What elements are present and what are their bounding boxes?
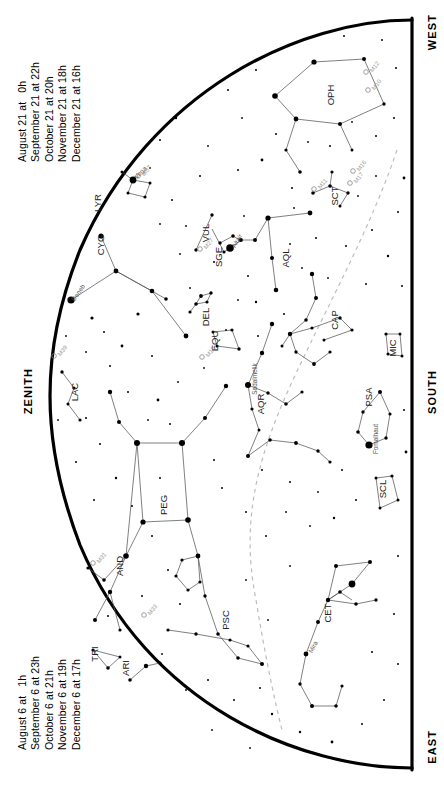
constellation-label-lac: LAC	[69, 383, 80, 402]
dso-m33	[142, 613, 147, 618]
constellation-label-psc: PSC	[220, 610, 231, 630]
constellation-label-mic: MIC	[387, 339, 398, 357]
date-time-line: October 6 at 21h	[43, 600, 56, 750]
constellation-label-psa: PSA	[363, 387, 374, 407]
constellation-label-and: AND	[114, 556, 125, 576]
cardinal-label-east: EAST	[426, 730, 438, 764]
constellation-label-lyr: LYR	[92, 194, 103, 212]
date-time-line: September 6 at 23h	[29, 600, 42, 750]
star-label-fomalhaut: Fomalhaut	[372, 424, 379, 454]
constellation-label-aqr: AQR	[255, 394, 266, 415]
constellation-label-del: DEL	[200, 308, 211, 326]
constellation-label-ari: ARI	[120, 660, 131, 676]
dso-m12	[364, 70, 369, 75]
date-time-line: September 21 at 22h	[29, 12, 42, 162]
constellation-label-group: OPHSCTAQLSGEVULCYGLYRLACDELEQUAQRCAPMICP…	[69, 85, 398, 676]
dso-label-m31: M31	[95, 551, 108, 564]
dso-m31	[91, 561, 96, 566]
constellation-label-sct: SCT	[329, 186, 340, 205]
upper-date-time-list: August 21 at 0hSeptember 21 at 22hOctobe…	[16, 12, 83, 162]
constellation-label-sge: SGE	[213, 247, 224, 267]
date-time-line: December 21 at 16h	[70, 12, 83, 162]
dso-m10	[366, 88, 371, 93]
star-field	[57, 35, 407, 749]
star-chart-canvas: OPHSCTAQLSGEVULCYGLYRLACDELEQUAQRCAPMICP…	[0, 0, 444, 788]
date-time-line: August 6 at 1h	[16, 600, 29, 750]
star-label-deneb: Deneb	[70, 282, 87, 302]
date-time-line: November 6 at 19h	[56, 600, 69, 750]
dso-label-m11: M11	[317, 177, 329, 190]
date-time-line: October 21 at 20h	[43, 12, 56, 162]
star-label-mira: Mira	[307, 639, 319, 654]
dso-m15	[200, 355, 205, 360]
star-label-sadalmelik: Sadalmelik	[251, 363, 258, 395]
constellation-label-tri: TRI	[89, 646, 100, 661]
dso-m16	[351, 169, 356, 174]
date-time-line: November 21 at 18h	[56, 12, 69, 162]
dso-label-m39: M39	[56, 344, 69, 357]
date-time-line: August 21 at 0h	[16, 12, 29, 162]
lower-date-time-list: August 6 at 1hSeptember 6 at 23hOctober …	[16, 600, 83, 750]
date-time-line: December 6 at 17h	[70, 600, 83, 750]
constellation-label-scl: SCL	[377, 480, 388, 498]
constellation-label-oph: OPH	[325, 85, 336, 106]
dso-m11	[312, 187, 317, 192]
constellation-label-cyg: CYG	[95, 235, 106, 256]
dso-label-m16: M16	[355, 159, 368, 172]
constellation-label-cap: CAP	[329, 310, 340, 330]
dso-label-m10: M10	[370, 78, 383, 91]
cardinal-label-west: WEST	[426, 14, 438, 50]
dso-label-m12: M12	[368, 60, 381, 73]
constellation-label-cet: CET	[322, 603, 333, 622]
dso-label-m33: M33	[146, 603, 159, 616]
constellation-label-peg: PEG	[158, 495, 169, 515]
dso-m17	[348, 181, 353, 186]
cardinal-label-zenith: ZENITH	[22, 368, 34, 414]
dso-m27	[198, 247, 203, 252]
horizon-boundary	[50, 18, 412, 770]
constellation-label-aql: AQL	[280, 248, 291, 267]
cardinal-label-south: SOUTH	[426, 370, 438, 414]
